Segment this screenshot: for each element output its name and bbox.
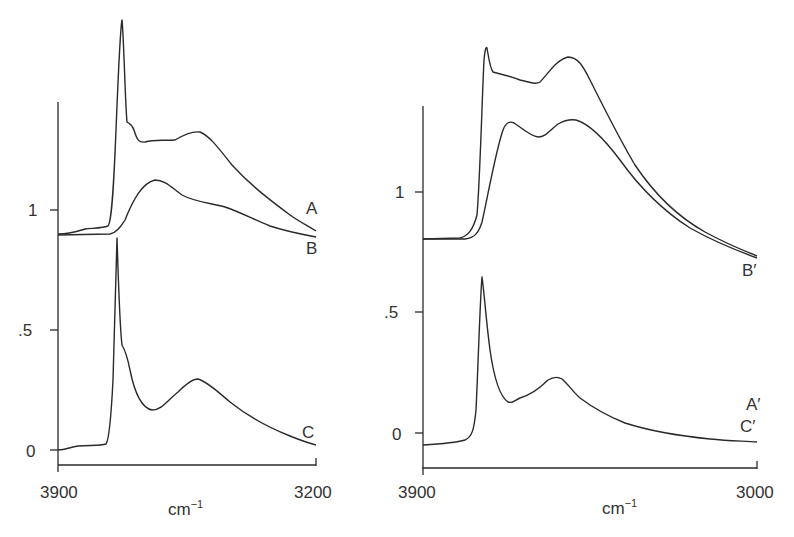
curve-C xyxy=(58,238,316,450)
left-y-label-0: 0 xyxy=(26,442,35,461)
label-C-prime: C′ xyxy=(740,417,755,436)
left-panel: 1 .5 0 3900 3200 cm−1 A B C xyxy=(18,20,332,519)
left-y-label-05: .5 xyxy=(18,321,32,340)
left-x-unit: cm−1 xyxy=(168,498,203,519)
right-y-label-1: 1 xyxy=(395,183,404,202)
spectra-figure: 1 .5 0 3900 3200 cm−1 A B C 1 .5 0 3900 … xyxy=(0,0,794,537)
curve-C-prime xyxy=(423,277,757,445)
right-x-label-end: 3000 xyxy=(736,483,774,502)
left-x-label-start: 3900 xyxy=(40,483,78,502)
right-y-label-05: .5 xyxy=(384,303,398,322)
label-C: C xyxy=(302,423,314,442)
curve-A-prime xyxy=(423,48,757,257)
label-A-prime: A′ xyxy=(746,395,761,414)
right-x-label-start: 3900 xyxy=(398,483,436,502)
left-x-label-end: 3200 xyxy=(294,483,332,502)
right-x-unit: cm−1 xyxy=(602,497,637,518)
label-B: B xyxy=(306,239,317,258)
right-y-label-0: 0 xyxy=(392,425,401,444)
label-A: A xyxy=(306,199,318,218)
label-B-prime: B′ xyxy=(742,261,757,280)
right-panel: 1 .5 0 3900 3000 cm−1 A′ B′ C′ xyxy=(384,48,774,519)
curve-A xyxy=(58,20,316,234)
left-y-label-1: 1 xyxy=(28,201,37,220)
curve-B-prime xyxy=(423,120,757,258)
